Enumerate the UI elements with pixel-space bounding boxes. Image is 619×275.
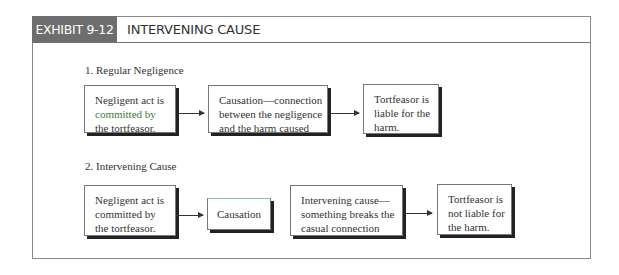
box-text-line: harm. [374, 120, 438, 134]
box-text-line: and the harm caused [219, 121, 327, 135]
box-text-line: the tortfeasor. [95, 221, 175, 235]
box-text-line: Negligent act is [95, 93, 175, 107]
box-text-line: between the negligence [219, 107, 327, 121]
arrow-right-icon [178, 113, 204, 114]
section-heading-regular-negligence: 1. Regular Negligence [85, 64, 184, 76]
box-text-line: something breaks the [301, 207, 402, 221]
flow-box-causation-connection: Causation—connection between the neglige… [208, 85, 328, 133]
section-heading-intervening-cause: 2. Intervening Cause [85, 160, 176, 172]
box-text-line: liable for the [374, 106, 438, 120]
exhibit-header: EXHIBIT 9-12 INTERVENING CAUSE [32, 16, 591, 43]
box-text-line: casual connection [301, 221, 402, 235]
arrow-right-icon [405, 213, 432, 214]
box-text-line: not liable for [448, 206, 511, 220]
flow-box-tortfeasor-not-liable: Tortfeasor is not liable for the harm. [437, 184, 512, 235]
exhibit-title: INTERVENING CAUSE [127, 16, 260, 43]
box-text-line: Tortfeasor is [448, 192, 511, 206]
flow-box-causation: Causation [207, 198, 271, 230]
arrow-right-icon [176, 215, 203, 216]
box-text-line: the tortfeasor. [95, 121, 175, 135]
exhibit-tag: EXHIBIT 9-12 [32, 16, 117, 43]
box-text-line: committed by [95, 107, 175, 121]
flow-box-intervening-cause: Intervening cause— something breaks the … [290, 185, 403, 236]
box-text-line: the harm. [448, 220, 511, 234]
flow-box-negligent-act: Negligent act is committed by the tortfe… [84, 85, 176, 133]
arrow-right-icon [331, 113, 359, 114]
flow-box-tortfeasor-liable: Tortfeasor is liable for the harm. [363, 84, 439, 134]
flow-box-negligent-act: Negligent act is committed by the tortfe… [84, 185, 176, 236]
box-text-line: committed by [95, 207, 175, 221]
box-text-line: Causation [217, 207, 261, 221]
box-text-line: Tortfeasor is [374, 92, 438, 106]
box-text-line: Causation—connection [219, 93, 327, 107]
box-text-line: Negligent act is [95, 193, 175, 207]
box-text-line: Intervening cause— [301, 193, 402, 207]
